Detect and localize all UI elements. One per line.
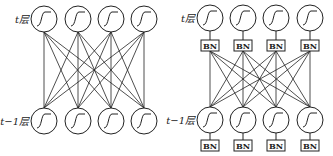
bn-label: BN: [236, 41, 250, 51]
bn-label: BN: [203, 41, 217, 51]
right-top-layer-label: t层: [181, 13, 196, 24]
right-bottom-bn-box-1: BN: [201, 140, 219, 151]
right-top-bn-box-1: BN: [201, 40, 219, 51]
left-bottom-neuron-2: [65, 108, 91, 134]
left-top-neuron-2: [65, 6, 91, 32]
bn-label: BN: [303, 141, 317, 151]
left-top-layer-label: t层: [15, 14, 30, 25]
left-top-neuron-1: [31, 6, 57, 32]
right-bottom-bn-box-2: BN: [234, 140, 252, 151]
right-top-neuron-3: [263, 5, 289, 31]
bn-label: BN: [269, 141, 283, 151]
bn-label: BN: [236, 141, 250, 151]
right-bottom-neuron-4: [297, 107, 323, 133]
right-top-bn-box-4: BN: [301, 40, 319, 51]
network-diagrams: t层t−1层BNBNBNBNBNBNBNBNt层t−1层: [0, 0, 333, 156]
right-bottom-neuron-1: [197, 107, 223, 133]
right-bottom-neuron-3: [263, 107, 289, 133]
left-bottom-neuron-1: [31, 108, 57, 134]
bn-label: BN: [303, 41, 317, 51]
left-top-neuron-3: [98, 6, 124, 32]
left-top-neuron-4: [131, 6, 157, 32]
left-bottom-layer-label: t−1层: [0, 116, 30, 127]
left-bottom-neuron-4: [131, 108, 157, 134]
right-top-bn-box-3: BN: [267, 40, 285, 51]
right-top-bn-box-2: BN: [234, 40, 252, 51]
bn-label: BN: [269, 41, 283, 51]
right-bottom-layer-label: t−1层: [166, 115, 196, 126]
right-top-neuron-1: [197, 5, 223, 31]
right-bottom-bn-box-3: BN: [267, 140, 285, 151]
right-bottom-neuron-2: [230, 107, 256, 133]
right-bottom-bn-box-4: BN: [301, 140, 319, 151]
bn-label: BN: [203, 141, 217, 151]
right-top-neuron-2: [230, 5, 256, 31]
right-top-neuron-4: [297, 5, 323, 31]
left-bottom-neuron-3: [98, 108, 124, 134]
